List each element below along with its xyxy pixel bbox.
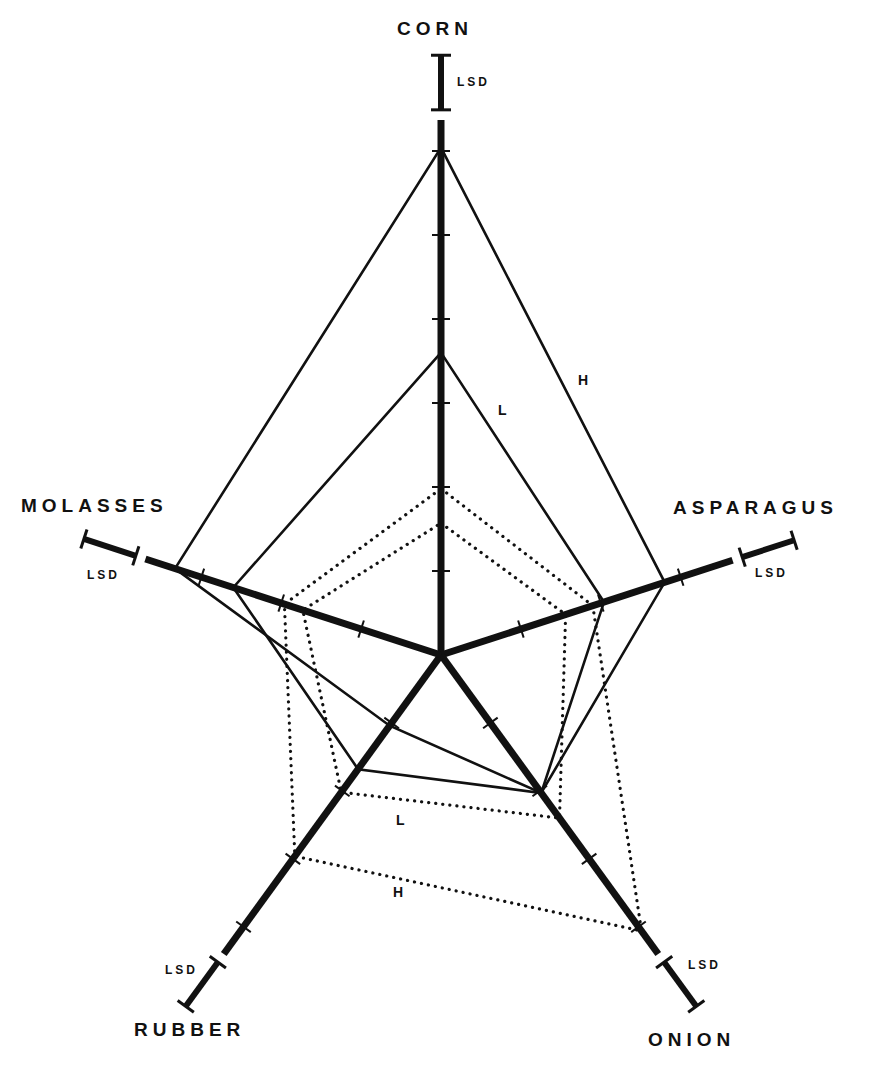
series-label-dotted-h: H — [393, 884, 403, 900]
lsd-label-molasses: LSD — [87, 568, 120, 582]
series-dotted-h-polygon — [284, 489, 641, 931]
axis-onion — [441, 655, 658, 954]
lsd-label-corn: LSD — [457, 75, 490, 89]
axis-label-onion: ONION — [648, 1029, 735, 1051]
radar-chart — [0, 0, 883, 1067]
series-label-solid-l: L — [498, 402, 507, 418]
lsd-label-onion: LSD — [688, 958, 721, 972]
axes — [81, 55, 797, 1012]
axis-label-molasses: MOLASSES — [21, 495, 168, 517]
series-solid-h-polygon — [175, 148, 665, 793]
lsd-bar-molasses — [84, 539, 136, 556]
series-label-solid-h: H — [578, 372, 588, 388]
axis-molasses — [145, 559, 441, 655]
axis-label-rubber: RUBBER — [134, 1019, 245, 1041]
lsd-bar-asparagus — [742, 540, 794, 557]
lsd-label-rubber: LSD — [165, 963, 198, 977]
series-polygons — [175, 148, 665, 931]
series-label-dotted-l: L — [396, 812, 405, 828]
series-solid-l-polygon — [233, 353, 604, 793]
axis-label-asparagus: ASPARAGUS — [673, 497, 838, 519]
lsd-label-asparagus: LSD — [755, 566, 788, 580]
axis-label-corn: CORN — [397, 18, 473, 40]
axis-rubber — [224, 655, 441, 954]
